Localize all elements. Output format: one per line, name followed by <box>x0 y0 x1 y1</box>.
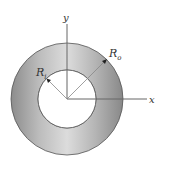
x-axis-label: x <box>149 94 155 105</box>
outer-radius-symbol: R <box>108 47 117 60</box>
y-axis-label: y <box>62 12 69 23</box>
inner-radius-symbol: R <box>35 66 44 79</box>
outer-radius-subscript: o <box>117 54 121 62</box>
outer-radius-label: Ro <box>108 47 122 62</box>
annulus-diagram: y x Ri Ro <box>0 0 170 172</box>
inner-radius-subscript: i <box>44 73 46 81</box>
